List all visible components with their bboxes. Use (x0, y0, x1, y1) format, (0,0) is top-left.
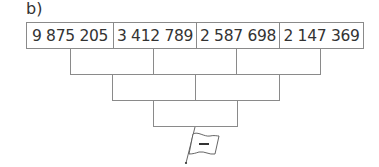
flag-minus-icon (0, 0, 379, 167)
